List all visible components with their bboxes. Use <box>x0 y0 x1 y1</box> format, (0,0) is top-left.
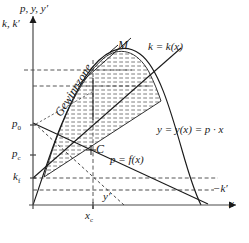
point-C-label: C <box>96 142 104 157</box>
diagram-canvas <box>0 0 249 243</box>
marginal-revenue-label: y′ <box>103 190 110 202</box>
y-tick-label-pc: pc <box>12 147 21 162</box>
y-axis-label-second: k, k′ <box>2 17 20 29</box>
marginal-cost-label: −k′ <box>213 182 228 194</box>
cost-curve-label: k = k(x) <box>148 40 183 52</box>
price-function-label: p = f(x) <box>110 153 144 165</box>
y-tick-label-p0: p0 <box>12 117 21 132</box>
revenue-curve-label: y = y(x) = p · x <box>157 123 223 135</box>
x-tick-label-xc: xc <box>85 209 93 224</box>
profit-zone-figure: p, y, y′ k, k′ x p0 pc kf xc k = k(x) y … <box>0 0 249 243</box>
point-M-label: M <box>118 38 128 53</box>
y-tick-label-kf: kf <box>13 170 20 185</box>
y-axis-label-top: p, y, y′ <box>20 2 48 14</box>
x-axis-label: x <box>229 197 234 209</box>
